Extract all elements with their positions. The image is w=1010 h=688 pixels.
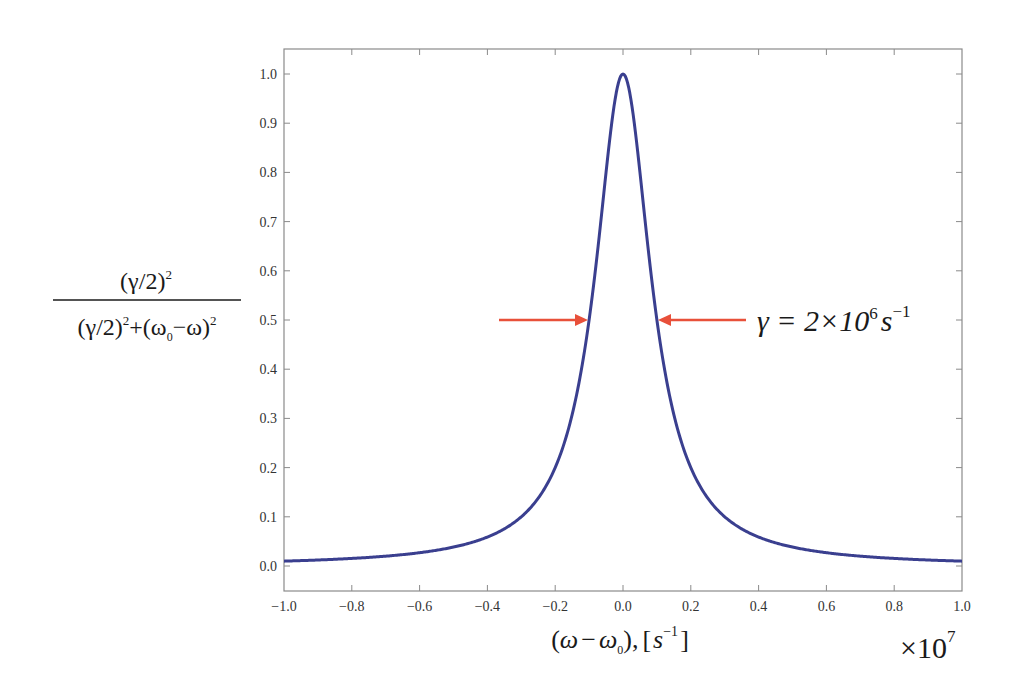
gamma-exp: 6 — [869, 304, 878, 323]
ylabel-den-b-rest: −ω) — [173, 314, 210, 340]
x-tick-labels: −1.0−0.8−0.6−0.4−0.20.00.20.40.60.81.0 — [271, 599, 970, 614]
x-tick-label: −1.0 — [271, 599, 296, 614]
x-tick-label: −0.6 — [407, 599, 432, 614]
xlabel-minus: − — [581, 625, 596, 654]
x-multiplier-exp: 7 — [947, 627, 956, 646]
y-tick-label: 0.7 — [260, 215, 278, 230]
y-tick-label: 0.8 — [260, 165, 278, 180]
x-tick-label: −0.2 — [542, 599, 567, 614]
xlabel-omega: ω — [560, 625, 578, 654]
x-tick-label: 0.2 — [682, 599, 700, 614]
x-tick-label: −0.4 — [475, 599, 500, 614]
xlabel-lbracket: [ — [642, 625, 651, 654]
ylabel-numerator: (γ/2)2 — [120, 267, 172, 294]
x-tick-label: 0.6 — [818, 599, 836, 614]
xlabel-close: ), — [623, 625, 638, 654]
x-tick-label: −0.8 — [339, 599, 364, 614]
x-multiplier: ×107 — [900, 627, 956, 664]
x-multiplier-base: ×10 — [900, 631, 947, 664]
y-tick-label: 0.4 — [260, 362, 278, 377]
ylabel-denominator: (γ/2)2+(ω0−ω)2 — [78, 313, 217, 344]
gamma-unit-exp: −1 — [893, 302, 911, 321]
y-tick-label: 0.1 — [260, 510, 278, 525]
left-arrow-head — [575, 314, 588, 326]
y-axis-label: (γ/2)2 (γ/2)2+(ω0−ω)2 — [53, 267, 241, 344]
ylabel-den-b-open: (ω — [143, 314, 167, 340]
x-axis-label: (ω−ω0),[s−1] — [551, 624, 689, 657]
xlabel-rbracket: ] — [680, 625, 689, 654]
y-tick-label: 0.6 — [260, 264, 278, 279]
gamma-unit: s — [881, 304, 893, 337]
y-tick-label: 0.0 — [260, 559, 278, 574]
right-arrow-head — [658, 314, 671, 326]
ylabel-num-text: (γ/2) — [120, 268, 165, 294]
gamma-annotation: γ = 2×106s−1 — [757, 302, 911, 337]
x-tick-label: 1.0 — [953, 599, 971, 614]
xlabel-omega0: ω — [599, 625, 617, 654]
fwhm-arrows — [499, 314, 746, 326]
y-tick-label: 1.0 — [260, 67, 278, 82]
x-tick-label: 0.0 — [614, 599, 632, 614]
y-tick-labels: 0.00.10.20.30.40.50.60.70.80.91.0 — [260, 67, 278, 574]
x-tick-label: 0.4 — [750, 599, 768, 614]
y-tick-label: 0.2 — [260, 461, 278, 476]
y-tick-label: 0.5 — [260, 313, 278, 328]
ylabel-den-plus: + — [129, 314, 143, 340]
ylabel-den-a: (γ/2) — [78, 314, 123, 340]
x-tick-label: 0.8 — [885, 599, 903, 614]
y-tick-label: 0.3 — [260, 411, 278, 426]
lorentzian-chart: −1.0−0.8−0.6−0.4−0.20.00.20.40.60.81.0 0… — [0, 0, 1010, 688]
xlabel-sup: −1 — [663, 624, 678, 639]
ylabel-num-sup: 2 — [165, 267, 172, 282]
gamma-text: γ = 2×10 — [757, 304, 869, 337]
xlabel-s: s — [653, 625, 663, 654]
y-tick-label: 0.9 — [260, 116, 278, 131]
xlabel-open: ( — [551, 625, 560, 654]
ylabel-den-b-sup: 2 — [210, 313, 217, 328]
